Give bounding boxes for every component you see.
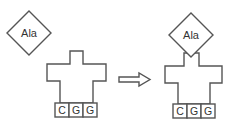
- anticodon-base: C: [176, 105, 184, 117]
- right-trna: C G G: [165, 53, 222, 118]
- anticodon-base: G: [86, 104, 94, 116]
- anticodon-base: G: [204, 105, 212, 117]
- amino-acid-label: Ala: [183, 29, 200, 41]
- left-amino-acid: Ala: [7, 11, 51, 55]
- trna-body: [47, 51, 106, 103]
- anticodon-base: G: [190, 105, 198, 117]
- amino-acid-label: Ala: [21, 27, 38, 39]
- anticodon-base: G: [72, 104, 80, 116]
- anticodon-base: C: [58, 104, 66, 116]
- trna-body: [165, 53, 222, 104]
- trna-charging-diagram: Ala C G G C G G Ala: [0, 0, 230, 124]
- right-arrow-icon: [119, 73, 150, 86]
- right-amino-acid: Ala: [169, 13, 213, 57]
- left-trna: C G G: [47, 51, 106, 117]
